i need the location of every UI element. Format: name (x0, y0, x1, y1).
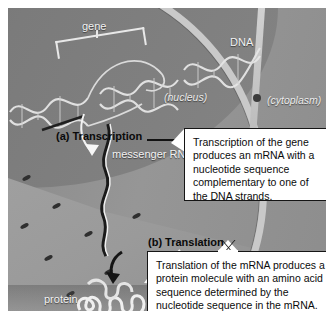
nucleus-label: (nucleus) (164, 91, 207, 103)
step-a-transcription-label: (a) Transcription (56, 130, 142, 142)
cytoplasm-label: (cytoplasm) (267, 94, 321, 106)
translation-callout: Translation of the mRNA produces a prote… (147, 251, 326, 311)
illustration-plate: gene DNA (nucleus) (cytoplasm) messenger… (8, 8, 326, 311)
transcription-callout: Transcription of the gene produces an mR… (184, 128, 326, 201)
gene-label: gene (82, 20, 106, 32)
translation-callout-pointer-mask (218, 250, 238, 253)
messenger-rna-label: messenger RNA (112, 148, 193, 160)
step-b-translation-label: (b) Translation (148, 236, 224, 248)
protein-label: protein (44, 293, 78, 305)
dna-label: DNA (230, 36, 253, 48)
transcription-translation-figure: gene DNA (nucleus) (cytoplasm) messenger… (0, 0, 334, 317)
